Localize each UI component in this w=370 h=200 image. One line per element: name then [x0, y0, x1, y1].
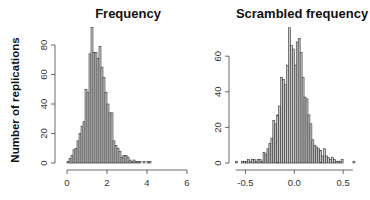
histogram-bar — [129, 160, 131, 163]
histogram-bar — [71, 156, 73, 163]
histogram-bar — [123, 156, 125, 163]
histogram-bar — [93, 52, 95, 163]
histogram-bar — [87, 92, 89, 163]
x-tick-label: -0.5 — [237, 177, 253, 188]
histogram-bar — [143, 162, 145, 163]
histogram-bar — [139, 162, 141, 163]
y-tick-label: 60 — [38, 69, 49, 80]
histogram-bar — [117, 148, 119, 163]
histogram-bar — [115, 145, 117, 163]
left-axes: 0204060800246 — [38, 40, 190, 188]
histogram-bar — [67, 162, 69, 163]
y-tick-label: 40 — [38, 99, 49, 110]
histogram-bar — [353, 161, 355, 163]
histogram-bar — [79, 134, 81, 164]
x-tick-label: 6 — [184, 177, 189, 188]
x-tick-label: 2 — [104, 177, 109, 188]
histogram-bar — [81, 126, 83, 163]
histogram-bar — [125, 156, 127, 163]
right-chart-title: Scrambled frequency — [236, 6, 369, 21]
histogram-bar — [149, 162, 151, 163]
histogram-bar — [133, 160, 135, 163]
left-histogram-bars — [67, 27, 151, 163]
y-tick-label: 0 — [38, 160, 49, 165]
histogram-bar — [109, 113, 111, 163]
y-tick-label: 40 — [212, 87, 223, 98]
histogram-bar — [131, 162, 133, 163]
histogram-bar — [83, 122, 85, 163]
y-tick-label: 20 — [38, 128, 49, 139]
histogram-bar — [99, 46, 101, 163]
histogram-bar — [101, 67, 103, 163]
histogram-bar — [111, 113, 113, 163]
histogram-bar — [103, 77, 105, 163]
histogram-bar — [105, 92, 107, 163]
histogram-bar — [89, 54, 91, 163]
histogram-bar — [75, 148, 77, 163]
histogram-bar — [135, 162, 137, 163]
x-tick-label: 4 — [144, 177, 149, 188]
histogram-bar — [95, 52, 97, 163]
x-tick-label: 0.5 — [337, 177, 350, 188]
histogram-bar — [113, 141, 115, 163]
x-tick-label: 0 — [64, 177, 69, 188]
histogram-bar — [236, 161, 238, 163]
histogram-bar — [127, 157, 129, 163]
right-histogram-bars — [236, 28, 355, 163]
y-tick-label: 80 — [38, 40, 49, 51]
histogram-bar — [85, 89, 87, 163]
histogram-bar — [119, 151, 121, 163]
histogram-bar — [121, 157, 123, 163]
histogram-bar — [91, 27, 93, 163]
histogram-bar — [77, 141, 79, 163]
histogram-figure: Number of replications Frequency 0204060… — [0, 0, 370, 200]
histogram-bar — [341, 159, 343, 163]
histogram-bar — [147, 162, 149, 163]
histogram-bar — [137, 162, 139, 163]
histogram-bar — [107, 104, 109, 163]
x-tick-label: 0.0 — [288, 177, 301, 188]
histogram-bar — [97, 58, 99, 163]
y-tick-label: 20 — [212, 122, 223, 133]
histogram-bar — [73, 150, 75, 163]
y-tick-label: 60 — [212, 51, 223, 62]
y-tick-label: 0 — [212, 160, 223, 165]
y-axis-label: Number of replications — [9, 37, 21, 162]
left-chart-title: Frequency — [95, 6, 162, 21]
histogram-bar — [69, 159, 71, 163]
